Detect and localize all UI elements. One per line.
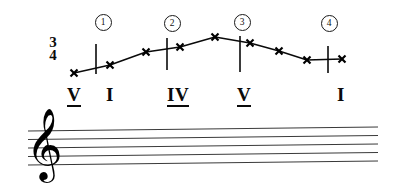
music-notation-figure: 3 4 1 2 3 4 V I IV V I [0,0,393,187]
staff-line-3 [28,144,378,148]
staff-line-1 [28,161,378,165]
staff-line-2 [28,153,378,157]
staff-lines [28,127,378,165]
staff-line-5 [28,127,378,131]
staff-line-4 [28,136,378,140]
treble-clef-icon: 𝄞 [26,113,63,175]
